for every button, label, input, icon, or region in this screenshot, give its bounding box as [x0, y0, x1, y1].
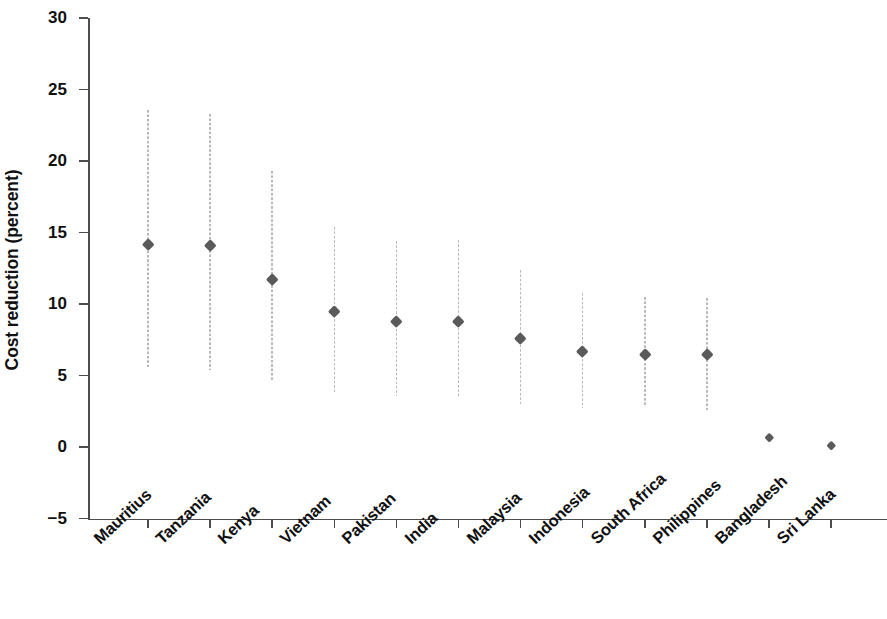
y-tick-label: 20 — [7, 152, 67, 169]
y-tick-label: 25 — [7, 81, 67, 98]
y-tick — [79, 17, 88, 19]
x-tick — [768, 519, 770, 528]
y-tick — [79, 375, 88, 377]
x-tick — [706, 519, 708, 528]
x-tick — [271, 519, 273, 528]
data-point-marker — [701, 348, 713, 360]
y-tick-label: 30 — [7, 9, 67, 26]
y-tick-label: 5 — [7, 367, 67, 384]
data-point-marker — [328, 305, 340, 317]
y-axis-line — [88, 18, 90, 519]
y-tick-label: −5 — [7, 510, 67, 527]
x-tick — [830, 519, 832, 528]
y-tick — [79, 232, 88, 234]
x-tick-label: Kenya — [214, 501, 262, 548]
x-tick-label: Sri Lanka — [773, 485, 839, 548]
x-tick-label: Mauritius — [90, 485, 155, 548]
data-point-marker — [515, 332, 527, 344]
x-tick — [209, 519, 211, 528]
data-point-marker — [266, 274, 278, 286]
y-tick — [79, 303, 88, 305]
x-tick — [334, 519, 336, 528]
y-tick — [79, 160, 88, 162]
y-tick-label: 15 — [7, 224, 67, 241]
data-point-marker — [577, 345, 589, 357]
y-tick-label: 0 — [7, 438, 67, 455]
data-point-marker — [639, 348, 651, 360]
x-tick — [520, 519, 522, 528]
data-point-marker — [452, 315, 464, 327]
data-point-marker — [826, 441, 835, 450]
data-point-marker — [142, 238, 154, 250]
x-tick — [458, 519, 460, 528]
y-tick — [79, 89, 88, 91]
x-tick — [582, 519, 584, 528]
y-tick — [79, 518, 88, 520]
plot-area: 302520151050−5 MauritiusTanzaniaKenyaVie… — [0, 0, 887, 619]
y-tick — [79, 446, 88, 448]
x-tick — [396, 519, 398, 528]
x-tick-label: India — [401, 508, 441, 547]
data-point-marker — [204, 239, 216, 251]
y-tick-label: 10 — [7, 295, 67, 312]
x-tick — [147, 519, 149, 528]
x-tick-label: Indonesia — [525, 483, 593, 548]
chart-figure: Cost reduction (percent) 302520151050−5 … — [0, 0, 887, 619]
x-tick — [644, 519, 646, 528]
data-point-marker — [764, 432, 773, 441]
data-point-marker — [390, 315, 402, 327]
